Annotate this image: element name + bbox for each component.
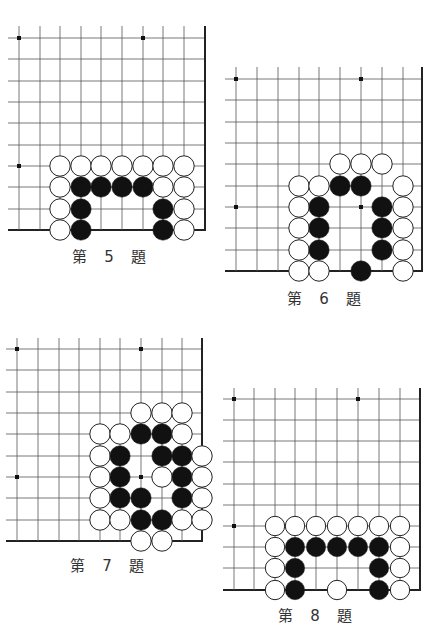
black-stone[interactable]: [172, 467, 192, 487]
black-stone[interactable]: [131, 510, 151, 530]
black-stone[interactable]: [372, 197, 392, 217]
black-stone[interactable]: [112, 177, 132, 197]
white-stone[interactable]: [192, 446, 212, 466]
black-stone[interactable]: [351, 176, 371, 196]
white-stone[interactable]: [390, 516, 409, 535]
black-stone[interactable]: [369, 580, 388, 599]
white-stone[interactable]: [152, 531, 172, 551]
black-stone[interactable]: [372, 240, 392, 260]
white-stone[interactable]: [351, 154, 371, 174]
white-stone[interactable]: [172, 424, 192, 444]
black-stone[interactable]: [285, 537, 304, 556]
white-stone[interactable]: [110, 510, 130, 530]
white-stone[interactable]: [306, 516, 325, 535]
white-stone[interactable]: [153, 177, 173, 197]
white-stone[interactable]: [192, 467, 212, 487]
white-stone[interactable]: [289, 261, 309, 281]
white-stone[interactable]: [90, 510, 110, 530]
white-stone[interactable]: [393, 176, 413, 196]
white-stone[interactable]: [172, 403, 192, 423]
white-stone[interactable]: [90, 467, 110, 487]
white-stone[interactable]: [174, 177, 194, 197]
black-stone[interactable]: [133, 177, 153, 197]
black-stone[interactable]: [110, 467, 130, 487]
white-stone[interactable]: [172, 510, 192, 530]
black-stone[interactable]: [152, 446, 172, 466]
white-stone[interactable]: [390, 558, 409, 577]
white-stone[interactable]: [174, 156, 194, 176]
black-stone[interactable]: [110, 488, 130, 508]
white-stone[interactable]: [369, 516, 388, 535]
white-stone[interactable]: [289, 176, 309, 196]
white-stone[interactable]: [393, 261, 413, 281]
white-stone[interactable]: [372, 154, 392, 174]
white-stone[interactable]: [309, 176, 329, 196]
white-stone[interactable]: [289, 197, 309, 217]
white-stone[interactable]: [174, 220, 194, 240]
white-stone[interactable]: [192, 488, 212, 508]
white-stone[interactable]: [90, 424, 110, 444]
white-stone[interactable]: [393, 240, 413, 260]
black-stone[interactable]: [91, 177, 111, 197]
white-stone[interactable]: [265, 580, 284, 599]
white-stone[interactable]: [110, 424, 130, 444]
black-stone[interactable]: [369, 537, 388, 556]
black-stone[interactable]: [348, 537, 367, 556]
black-stone[interactable]: [285, 580, 304, 599]
black-stone[interactable]: [309, 218, 329, 238]
white-stone[interactable]: [265, 516, 284, 535]
white-stone[interactable]: [390, 537, 409, 556]
black-stone[interactable]: [71, 199, 91, 219]
white-stone[interactable]: [265, 558, 284, 577]
black-stone[interactable]: [131, 488, 151, 508]
white-stone[interactable]: [71, 156, 91, 176]
white-stone[interactable]: [393, 197, 413, 217]
white-stone[interactable]: [153, 156, 173, 176]
black-stone[interactable]: [327, 537, 346, 556]
white-stone[interactable]: [133, 156, 153, 176]
white-stone[interactable]: [174, 199, 194, 219]
black-stone[interactable]: [153, 220, 173, 240]
white-stone[interactable]: [309, 261, 329, 281]
black-stone[interactable]: [330, 176, 350, 196]
white-stone[interactable]: [131, 403, 151, 423]
black-stone[interactable]: [131, 424, 151, 444]
black-stone[interactable]: [172, 446, 192, 466]
white-stone[interactable]: [152, 467, 172, 487]
black-stone[interactable]: [172, 488, 192, 508]
white-stone[interactable]: [192, 510, 212, 530]
black-stone[interactable]: [369, 558, 388, 577]
white-stone[interactable]: [265, 537, 284, 556]
black-stone[interactable]: [285, 558, 304, 577]
white-stone[interactable]: [330, 154, 350, 174]
white-stone[interactable]: [289, 240, 309, 260]
white-stone[interactable]: [50, 220, 70, 240]
white-stone[interactable]: [152, 403, 172, 423]
black-stone[interactable]: [309, 197, 329, 217]
white-stone[interactable]: [131, 531, 151, 551]
white-stone[interactable]: [348, 516, 367, 535]
white-stone[interactable]: [50, 156, 70, 176]
white-stone[interactable]: [393, 218, 413, 238]
black-stone[interactable]: [306, 537, 325, 556]
black-stone[interactable]: [71, 220, 91, 240]
white-stone[interactable]: [289, 218, 309, 238]
black-stone[interactable]: [152, 510, 172, 530]
white-stone[interactable]: [50, 177, 70, 197]
black-stone[interactable]: [71, 177, 91, 197]
black-stone[interactable]: [351, 261, 371, 281]
black-stone[interactable]: [153, 199, 173, 219]
white-stone[interactable]: [390, 580, 409, 599]
white-stone[interactable]: [50, 199, 70, 219]
black-stone[interactable]: [110, 446, 130, 466]
white-stone[interactable]: [90, 446, 110, 466]
black-stone[interactable]: [372, 218, 392, 238]
white-stone[interactable]: [112, 156, 132, 176]
white-stone[interactable]: [327, 580, 346, 599]
white-stone[interactable]: [91, 156, 111, 176]
black-stone[interactable]: [309, 240, 329, 260]
black-stone[interactable]: [152, 424, 172, 444]
white-stone[interactable]: [327, 516, 346, 535]
white-stone[interactable]: [285, 516, 304, 535]
white-stone[interactable]: [90, 488, 110, 508]
